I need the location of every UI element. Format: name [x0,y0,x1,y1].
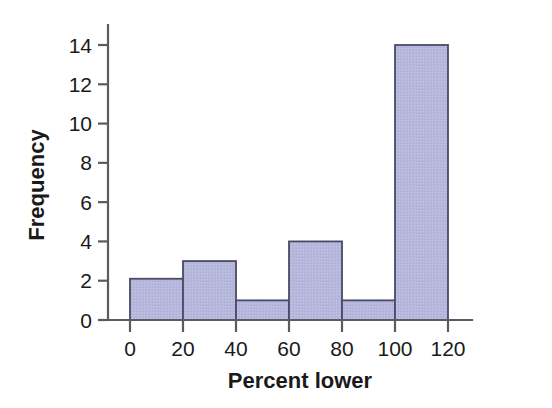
y-tick-label: 4 [80,230,92,253]
histogram-figure: 02468101214 020406080100120 Frequency Pe… [0,0,552,408]
y-tick-label: 2 [80,269,92,292]
x-tick-label: 40 [224,337,247,360]
y-tick-label: 8 [80,151,92,174]
chart-canvas: 02468101214 020406080100120 Frequency Pe… [0,0,552,408]
x-tick-label: 80 [330,337,353,360]
y-axis-title: Frequency [24,129,49,241]
histogram-bar [236,300,289,320]
y-tick-label: 14 [69,34,93,57]
histogram-bar [289,241,342,320]
x-tick-label: 20 [171,337,194,360]
y-tick-label: 6 [80,191,92,214]
x-tick-label: 60 [277,337,300,360]
x-tick-label: 0 [124,337,136,360]
histogram-bar [395,45,448,320]
histogram-bar [183,261,236,320]
y-tick-label: 0 [80,309,92,332]
histogram-bar [342,300,395,320]
x-tick-label: 120 [430,337,465,360]
y-tick-label: 10 [69,112,92,135]
y-tick-label: 12 [69,73,92,96]
histogram-bar [130,279,183,320]
x-axis-title: Percent lower [228,368,373,393]
x-tick-label: 100 [377,337,412,360]
